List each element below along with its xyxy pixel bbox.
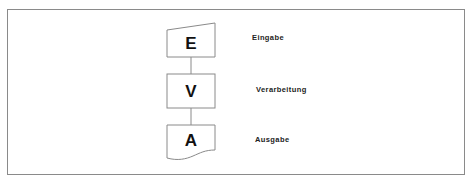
flowchart-shapes	[0, 0, 474, 183]
input-node-label: Eingabe	[252, 33, 284, 42]
output-node-label: Ausgabe	[255, 135, 289, 144]
process-node-letter: V	[167, 82, 215, 102]
output-node-letter: A	[167, 131, 215, 151]
input-node-letter: E	[167, 34, 215, 54]
process-node-label: Verarbeitung	[256, 85, 307, 94]
